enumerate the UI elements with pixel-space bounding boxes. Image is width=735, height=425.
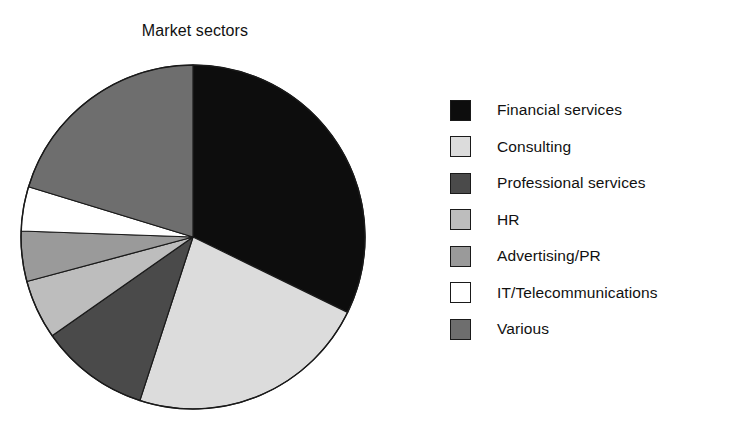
legend-item-label: Advertising/PR	[497, 247, 601, 265]
legend-item[interactable]: Consulting	[450, 129, 725, 166]
pie-svg	[18, 58, 374, 418]
pie-plot-area	[18, 58, 374, 418]
legend-item-label: Consulting	[497, 138, 571, 156]
legend-item-label: IT/Telecommunications	[497, 284, 658, 302]
legend-item-label: Professional services	[497, 174, 646, 192]
legend-item[interactable]: Professional services	[450, 165, 725, 202]
pie-slices-group	[21, 65, 365, 409]
legend-swatch-icon	[450, 100, 471, 121]
legend-item-label: HR	[497, 211, 520, 229]
legend-item-label: Financial services	[497, 101, 622, 119]
legend-item[interactable]: Advertising/PR	[450, 238, 725, 275]
legend-swatch-icon	[450, 209, 471, 230]
chart-title: Market sectors	[60, 22, 330, 40]
legend-swatch-icon	[450, 136, 471, 157]
legend-item[interactable]: IT/Telecommunications	[450, 275, 725, 312]
legend-swatch-icon	[450, 282, 471, 303]
legend-item-label: Various	[497, 320, 549, 338]
legend-swatch-icon	[450, 173, 471, 194]
legend-item[interactable]: Various	[450, 311, 725, 348]
legend-swatch-icon	[450, 319, 471, 340]
pie-chart-figure: Market sectors Financial services Consul…	[0, 0, 735, 425]
legend-item[interactable]: HR	[450, 202, 725, 239]
legend-item[interactable]: Financial services	[450, 92, 725, 129]
legend-swatch-icon	[450, 246, 471, 267]
chart-legend: Financial services Consulting Profession…	[450, 92, 725, 348]
